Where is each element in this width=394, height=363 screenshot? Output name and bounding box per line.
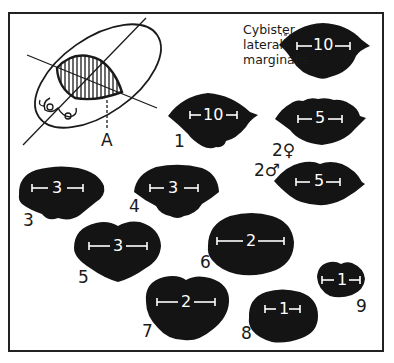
scale-value-8: 1 [279,301,289,317]
specimen-label-5: 5 [78,269,89,286]
scale-value-reference: 10 [313,37,333,53]
scale-value-2-male: 5 [314,173,324,189]
scale-value-5: 3 [113,238,123,254]
beetle-cross-section-diagram [17,4,179,149]
species-name-label: Cybister laterali– marginalis [243,22,308,67]
specimen-label-2-female: 2♀ [272,142,295,159]
scale-value-4: 3 [168,180,178,196]
specimen-label-1: 1 [174,133,185,150]
specimen-label-2-male: 2♂ [254,162,280,179]
specimen-label-6: 6 [200,254,211,271]
species-name-line-1: Cybister [243,22,308,37]
scale-value-2-female: 5 [315,110,325,126]
scale-value-1: 10 [203,107,223,123]
species-name-line-3: marginalis [243,52,308,67]
specimen-label-7: 7 [142,323,153,340]
scale-value-9: 1 [337,272,347,288]
specimen-label-9: 9 [356,298,367,315]
species-name-line-2: laterali– [243,37,308,52]
scale-value-3: 3 [52,180,62,196]
scale-value-6: 2 [246,233,256,249]
specimen-label-3: 3 [23,212,34,229]
specimen-label-8: 8 [241,325,252,342]
section-label-a: A [101,132,113,149]
specimen-label-4: 4 [129,198,140,215]
scale-value-7: 2 [181,294,191,310]
